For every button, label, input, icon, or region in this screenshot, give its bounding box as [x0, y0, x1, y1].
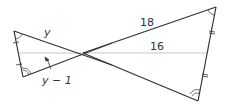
label-y: y: [43, 26, 51, 39]
diagram-canvas: y y − 1 18 16: [0, 0, 227, 106]
label-18: 18: [140, 16, 154, 29]
label-16: 16: [150, 40, 164, 53]
label-y-minus-1: y − 1: [41, 74, 72, 87]
